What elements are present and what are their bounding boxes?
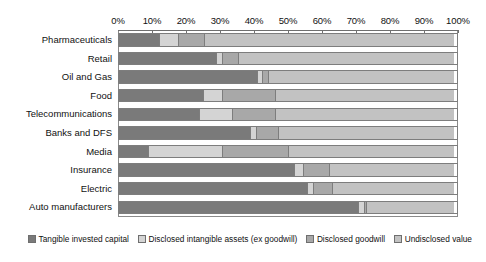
bar-segment[interactable] [159, 34, 179, 45]
x-axis-tick-label: 40% [245, 15, 264, 26]
stacked-bar[interactable] [118, 89, 458, 102]
x-axis-tick-label: 10% [143, 15, 162, 26]
bar-row: Telecommunications [0, 105, 486, 124]
stacked-bar[interactable] [118, 182, 458, 195]
bar-segment[interactable] [119, 34, 160, 45]
bar-segment[interactable] [148, 146, 222, 157]
stacked-bar[interactable] [118, 70, 458, 83]
bar-segment[interactable] [222, 90, 276, 101]
stacked-bar[interactable] [118, 33, 458, 46]
stacked-bar[interactable] [118, 108, 458, 121]
bar-row: Retail [0, 50, 486, 69]
bar-segment[interactable] [232, 109, 276, 120]
bar-segment[interactable] [119, 71, 258, 82]
legend-swatch-icon [394, 235, 402, 243]
bar-rows: PharmaceuticalsRetailOil and GasFoodTele… [0, 31, 486, 217]
legend-label: Disclosed goodwill [317, 234, 385, 244]
bar-segment[interactable] [119, 53, 217, 64]
bar-segment[interactable] [278, 127, 454, 138]
category-label: Pharmaceuticals [0, 33, 112, 46]
stacked-bar[interactable] [118, 52, 458, 65]
legend-label: Disclosed intangible assets (ex goodwill… [148, 234, 297, 244]
legend-item[interactable]: Tangible invested capital [28, 234, 129, 244]
bar-segment[interactable] [288, 146, 454, 157]
chart-legend: Tangible invested capitalDisclosed intan… [28, 232, 468, 246]
category-label: Media [0, 145, 112, 158]
legend-swatch-icon [138, 235, 146, 243]
category-label: Oil and Gas [0, 70, 112, 83]
bar-segment[interactable] [329, 164, 454, 175]
x-axis-tick-label: 70% [347, 15, 366, 26]
bar-segment[interactable] [256, 127, 280, 138]
x-axis-tick-label: 50% [279, 15, 298, 26]
bar-segment[interactable] [366, 202, 454, 213]
bar-segment[interactable] [119, 109, 200, 120]
bar-segment[interactable] [332, 183, 454, 194]
category-label: Food [0, 89, 112, 102]
bar-segment[interactable] [119, 146, 149, 157]
bar-row: Media [0, 143, 486, 162]
legend-swatch-icon [28, 235, 36, 243]
bar-segment[interactable] [303, 164, 330, 175]
stacked-bar[interactable] [118, 163, 458, 176]
bar-segment[interactable] [204, 34, 454, 45]
bar-row: Oil and Gas [0, 68, 486, 87]
legend-item[interactable]: Disclosed goodwill [306, 234, 385, 244]
stacked-bar[interactable] [118, 201, 458, 214]
category-label: Electric [0, 182, 112, 195]
bar-segment[interactable] [275, 109, 454, 120]
x-axis-tick-label: 90% [415, 15, 434, 26]
bar-segment[interactable] [119, 164, 295, 175]
bar-row: Pharmaceuticals [0, 31, 486, 50]
bar-segment[interactable] [268, 71, 454, 82]
bar-segment[interactable] [119, 202, 359, 213]
bar-row: Banks and DFS [0, 124, 486, 143]
category-label: Auto manufacturers [0, 200, 112, 213]
bar-segment[interactable] [119, 90, 204, 101]
x-axis-tick-label: 0% [111, 15, 125, 26]
bar-segment[interactable] [238, 53, 454, 64]
legend-swatch-icon [306, 235, 314, 243]
category-label: Banks and DFS [0, 126, 112, 139]
x-axis-tick-label: 100% [446, 15, 470, 26]
bar-segment[interactable] [203, 90, 223, 101]
bar-row: Insurance [0, 161, 486, 180]
stacked-bar-chart: 0%10%20%30%40%50%60%70%80%90%100% Pharma… [0, 0, 486, 262]
bar-segment[interactable] [119, 127, 251, 138]
legend-label: Undisclosed value [405, 234, 472, 244]
stacked-bar[interactable] [118, 145, 458, 158]
bar-segment[interactable] [275, 90, 454, 101]
x-axis-tick-label: 60% [313, 15, 332, 26]
x-axis-tick-labels: 0%10%20%30%40%50%60%70%80%90%100% [0, 15, 486, 29]
bar-row: Auto manufacturers [0, 198, 486, 217]
category-label: Insurance [0, 163, 112, 176]
bar-segment[interactable] [119, 183, 308, 194]
bar-segment[interactable] [178, 34, 205, 45]
category-label: Retail [0, 52, 112, 65]
x-axis-tick-label: 20% [177, 15, 196, 26]
legend-label: Tangible invested capital [39, 234, 129, 244]
x-axis-tick-label: 30% [211, 15, 230, 26]
legend-item[interactable]: Undisclosed value [394, 234, 472, 244]
bar-row: Food [0, 87, 486, 106]
bar-segment[interactable] [222, 146, 290, 157]
stacked-bar[interactable] [118, 126, 458, 139]
legend-item[interactable]: Disclosed intangible assets (ex goodwill… [138, 234, 297, 244]
bar-segment[interactable] [199, 109, 233, 120]
bar-segment[interactable] [313, 183, 333, 194]
x-axis-tick-label: 80% [381, 15, 400, 26]
bar-segment[interactable] [222, 53, 239, 64]
category-label: Telecommunications [0, 107, 112, 120]
bar-row: Electric [0, 180, 486, 199]
